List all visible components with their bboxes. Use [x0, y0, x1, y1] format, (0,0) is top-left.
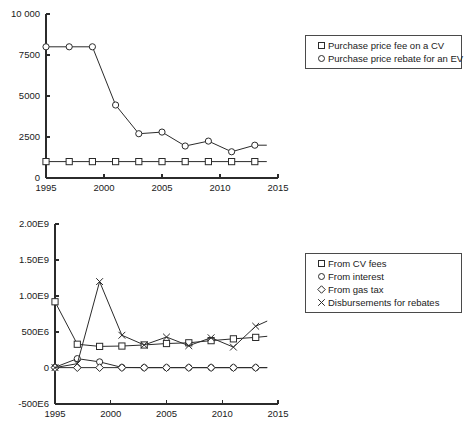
data-point-x	[252, 323, 259, 330]
legend-item-label: Purchase price fee on a CV	[328, 39, 444, 52]
data-point-square	[52, 299, 58, 305]
legend-item[interactable]: From interest	[306, 270, 461, 283]
legend-swatch	[314, 40, 328, 51]
data-point-circle	[43, 44, 49, 50]
data-point-x	[163, 334, 170, 341]
data-point-square	[229, 159, 235, 165]
legend-marker-circle	[316, 53, 327, 64]
y-axis-tick-label: 10 000	[11, 8, 40, 19]
data-point-x	[96, 278, 103, 285]
data-point-circle	[136, 131, 142, 137]
data-point-square	[159, 159, 165, 165]
data-point-diamond	[96, 364, 104, 372]
data-point-diamond	[163, 364, 171, 372]
series-line	[55, 282, 267, 368]
y-axis-tick-label: 7500	[19, 49, 40, 60]
x-axis-tick-label: 1995	[44, 408, 65, 419]
series-2	[51, 364, 267, 372]
data-point-square	[318, 43, 324, 49]
legend-item[interactable]: Purchase price fee on a CV	[306, 39, 461, 52]
data-point-diamond	[317, 286, 325, 294]
data-point-x	[318, 299, 325, 306]
chart-top-panel: 025005000750010 00019952000200520102015	[0, 0, 468, 210]
legend-item-label: Purchase price rebate for an EV	[328, 52, 463, 65]
series-line	[46, 47, 266, 152]
data-point-circle	[252, 142, 258, 148]
y-axis-tick-label: 1.50E9	[19, 254, 49, 265]
data-point-diamond	[230, 364, 238, 372]
legend-top: Purchase price fee on a CVPurchase price…	[305, 35, 462, 69]
legend-marker-diamond	[316, 284, 327, 295]
legend-item-label: Disbursements for rebates	[328, 296, 439, 309]
series-1	[43, 44, 267, 155]
x-axis-tick-label: 2005	[156, 408, 177, 419]
x-axis-tick-label: 2015	[267, 182, 288, 193]
data-point-square	[89, 159, 95, 165]
legend-item-label: From CV fees	[328, 257, 387, 270]
legend-marker-x	[316, 297, 327, 308]
series-0	[52, 299, 267, 350]
series-3	[52, 278, 267, 371]
y-axis-tick-label: 1.00E9	[19, 290, 49, 301]
data-point-circle	[66, 44, 72, 50]
x-axis-tick-label: 2010	[212, 408, 233, 419]
data-point-square	[252, 159, 258, 165]
legend-swatch	[314, 53, 328, 64]
legend-item-label: From interest	[328, 270, 384, 283]
data-point-circle	[89, 44, 95, 50]
data-point-square	[43, 159, 49, 165]
data-point-circle	[182, 143, 188, 149]
data-point-diamond	[140, 364, 148, 372]
data-point-square	[119, 343, 125, 349]
legend-marker-circle	[316, 271, 327, 282]
data-point-x	[118, 332, 125, 339]
data-point-diamond	[118, 364, 126, 372]
data-point-diamond	[252, 364, 260, 372]
data-point-diamond	[73, 364, 81, 372]
data-point-square	[163, 340, 169, 346]
x-axis-tick-label: 2000	[100, 408, 121, 419]
data-point-square	[66, 159, 72, 165]
chart-bottom-panel: -500E60500E61.00E91.50E92.00E91995200020…	[0, 208, 468, 438]
data-point-square	[318, 261, 324, 267]
data-point-circle	[159, 129, 165, 135]
legend-bottom: From CV feesFrom interestFrom gas taxDis…	[305, 253, 462, 313]
legend-swatch	[314, 297, 328, 308]
series-0	[43, 159, 267, 165]
legend-swatch	[314, 284, 328, 295]
x-axis-tick-label: 2000	[93, 182, 114, 193]
data-point-square	[74, 341, 80, 347]
data-point-square	[113, 159, 119, 165]
data-point-square	[97, 343, 103, 349]
legend-marker-square	[316, 40, 327, 51]
figure-root: 025005000750010 00019952000200520102015 …	[0, 0, 468, 438]
y-axis-tick-label: 5000	[19, 90, 40, 101]
legend-item[interactable]: Purchase price rebate for an EV	[306, 52, 461, 65]
legend-swatch	[314, 258, 328, 269]
data-point-square	[205, 159, 211, 165]
data-point-diamond	[207, 364, 215, 372]
data-point-circle	[113, 102, 119, 108]
legend-swatch	[314, 271, 328, 282]
legend-marker-square	[316, 258, 327, 269]
x-axis-tick-label: 1995	[35, 182, 56, 193]
data-point-square	[230, 336, 236, 342]
legend-item[interactable]: From CV fees	[306, 257, 461, 270]
x-axis-tick-label: 2015	[267, 408, 288, 419]
data-point-diamond	[185, 364, 193, 372]
y-axis-tick-label: 500E6	[22, 326, 49, 337]
x-axis-tick-label: 2010	[209, 182, 230, 193]
y-axis-tick-label: 2.00E9	[19, 218, 49, 229]
legend-item[interactable]: From gas tax	[306, 283, 461, 296]
y-axis-tick-label: 2500	[19, 131, 40, 142]
x-axis-tick-label: 2005	[151, 182, 172, 193]
data-point-circle	[318, 274, 324, 280]
y-axis-tick-label: 0	[44, 362, 49, 373]
data-point-circle	[318, 56, 324, 62]
data-point-square	[182, 159, 188, 165]
data-point-square	[136, 159, 142, 165]
data-point-circle	[229, 149, 235, 155]
data-point-square	[253, 334, 259, 340]
data-point-circle	[205, 138, 211, 144]
legend-item[interactable]: Disbursements for rebates	[306, 296, 461, 309]
